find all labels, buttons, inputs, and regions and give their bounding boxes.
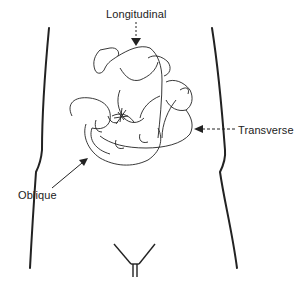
label-longitudinal: Longitudinal — [106, 8, 167, 20]
diagram-artwork — [0, 0, 306, 288]
pubic-outline — [114, 244, 155, 277]
fetus-longitudinal — [94, 47, 170, 138]
label-oblique: Oblique — [18, 189, 57, 201]
arrow-transverse — [194, 125, 236, 133]
label-transverse: Transverse — [238, 124, 294, 136]
fetus-transverse — [100, 80, 192, 148]
arrow-oblique — [52, 158, 88, 188]
arrow-longitudinal — [131, 22, 141, 46]
torso-outline — [30, 28, 237, 268]
fetal-lie-diagram: Longitudinal Transverse Oblique — [0, 0, 306, 288]
fetus-oblique — [70, 98, 161, 165]
